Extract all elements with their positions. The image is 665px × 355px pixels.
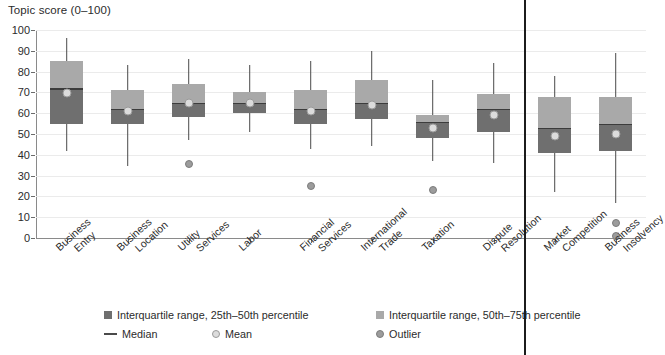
box-iqr-upper (477, 94, 510, 109)
whisker-upper (371, 51, 373, 80)
x-axis-labels: BusinessEntryBusinessLocationUtilityServ… (36, 244, 646, 310)
mean-dot (306, 107, 315, 116)
outlier-dot-1 (307, 182, 315, 190)
y-tick-label-30: 30 (0, 170, 30, 181)
whisker-lower (188, 117, 190, 140)
box-plot-3[interactable] (172, 30, 205, 238)
whisker-lower (127, 124, 129, 167)
whisker-upper (66, 38, 68, 61)
whisker-lower (493, 132, 495, 163)
y-tick-label-10: 10 (0, 212, 30, 223)
box-plot-8[interactable] (477, 30, 510, 238)
box-plot-9[interactable] (538, 30, 571, 238)
y-tick-mark-90 (31, 51, 35, 52)
y-tick-mark-80 (31, 72, 35, 73)
whisker-upper (249, 65, 251, 92)
y-tick-mark-50 (31, 134, 35, 135)
mean-dot-swatch-icon (212, 330, 220, 338)
whisker-lower (310, 124, 312, 149)
legend-label-median: Median (122, 328, 157, 340)
mean-dot (184, 98, 193, 107)
box-iqr-upper (599, 97, 632, 124)
y-tick-label-90: 90 (0, 45, 30, 56)
box-plot-4[interactable] (233, 30, 266, 238)
y-tick-label-70: 70 (0, 87, 30, 98)
box-plot-7[interactable] (416, 30, 449, 238)
legend-row-1: Interquartile range, 25th–50th percentil… (104, 309, 644, 325)
legend-item-median: Median (104, 328, 157, 340)
mean-dot (489, 111, 498, 120)
whisker-lower (66, 124, 68, 151)
y-tick-mark-100 (31, 30, 35, 31)
box-iqr-upper (538, 97, 571, 128)
legend-label-outlier: Outlier (389, 328, 421, 340)
box-iqr-upper (50, 61, 83, 88)
legend-item-iqr-lower: Interquartile range, 25th–50th percentil… (104, 309, 308, 321)
y-tick-mark-60 (31, 113, 35, 114)
y-tick-label-60: 60 (0, 108, 30, 119)
y-tick-mark-20 (31, 196, 35, 197)
box-plot-2[interactable] (111, 30, 144, 238)
axis-title: Topic score (0–100) (8, 4, 111, 16)
whisker-upper (432, 80, 434, 115)
whisker-lower (615, 151, 617, 203)
y-tick-label-100: 100 (0, 25, 30, 36)
legend-item-outlier: Outlier (376, 328, 421, 340)
whisker-upper (188, 59, 190, 84)
whisker-upper (127, 65, 129, 90)
mean-dot (123, 107, 132, 116)
mean-dot (367, 100, 376, 109)
legend-label-iqr-lower: Interquartile range, 25th–50th percentil… (117, 309, 308, 321)
y-tick-label-20: 20 (0, 191, 30, 202)
whisker-lower (371, 119, 373, 146)
box-plot-1[interactable] (50, 30, 83, 238)
page-fold-artifact (524, 0, 526, 355)
whisker-lower (249, 113, 251, 132)
y-tick-label-50: 50 (0, 129, 30, 140)
whisker-lower (432, 138, 434, 161)
mean-dot (428, 123, 437, 132)
iqr-upper-swatch-icon (376, 311, 384, 319)
y-tick-mark-30 (31, 176, 35, 177)
whisker-upper (615, 53, 617, 97)
legend-label-iqr-upper: Interquartile range, 50th–75th percentil… (389, 309, 580, 321)
median-line-swatch-icon (104, 333, 117, 335)
whisker-upper (554, 76, 556, 97)
plot-area (36, 30, 646, 238)
y-tick-mark-70 (31, 92, 35, 93)
y-tick-label-40: 40 (0, 149, 30, 160)
whisker-upper (493, 63, 495, 94)
median-line (538, 128, 571, 129)
iqr-lower-swatch-icon (104, 311, 112, 319)
whisker-lower (554, 153, 556, 193)
mean-dot (245, 98, 254, 107)
y-tick-label-80: 80 (0, 66, 30, 77)
y-tick-mark-10 (31, 217, 35, 218)
y-tick-mark-40 (31, 155, 35, 156)
median-line (599, 124, 632, 125)
outlier-dot-1 (429, 186, 437, 194)
box-plot-10[interactable] (599, 30, 632, 238)
mean-dot (611, 130, 620, 139)
box-iqr-upper (355, 80, 388, 103)
mean-dot (62, 89, 71, 98)
mean-dot (550, 132, 559, 141)
y-tick-label-0: 0 (0, 233, 30, 244)
chart-legend: Interquartile range, 25th–50th percentil… (104, 309, 644, 349)
box-plot-6[interactable] (355, 30, 388, 238)
box-plot-5[interactable] (294, 30, 327, 238)
outlier-dot-1 (612, 219, 620, 227)
y-tick-mark-0 (31, 238, 35, 239)
legend-label-mean: Mean (225, 328, 252, 340)
whisker-upper (310, 61, 312, 90)
legend-item-iqr-upper: Interquartile range, 50th–75th percentil… (376, 309, 580, 321)
outlier-dot-swatch-icon (376, 330, 384, 338)
y-axis-labels: 0102030405060708090100 (0, 30, 30, 238)
legend-item-mean: Mean (212, 328, 252, 340)
legend-row-2: Median Mean Outlier (104, 328, 644, 344)
outlier-dot-1 (185, 160, 193, 168)
